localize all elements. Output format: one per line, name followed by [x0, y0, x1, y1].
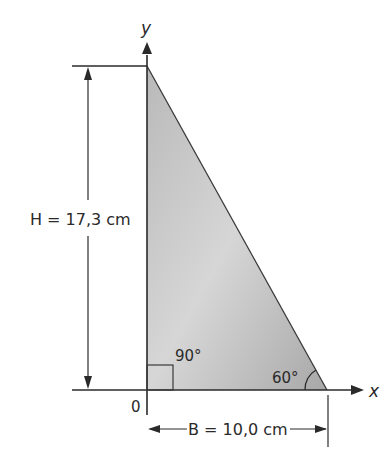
height-arrow-down-icon	[84, 376, 92, 389]
y-axis-label: y	[140, 18, 152, 38]
base-angle-label: 60°	[272, 369, 299, 387]
right-angle-label: 90°	[175, 347, 202, 365]
triangle-diagram: y x 0 90° 60° H = 17,3 cm B = 10,0 cm	[0, 0, 391, 472]
x-axis-arrow-icon	[351, 385, 364, 395]
origin-label: 0	[131, 398, 141, 416]
base-arrow-right-icon	[315, 425, 327, 433]
height-label: H = 17,3 cm	[30, 210, 131, 229]
base-label: B = 10,0 cm	[188, 420, 288, 439]
height-arrow-up-icon	[84, 67, 92, 80]
y-axis-arrow-icon	[142, 42, 152, 54]
base-arrow-left-icon	[148, 425, 160, 433]
x-axis-label: x	[368, 381, 380, 401]
